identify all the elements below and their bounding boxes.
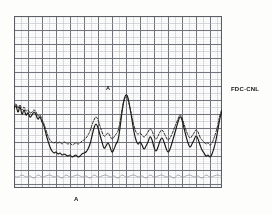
figure-page: FDC-CNL A A bbox=[0, 0, 272, 215]
peak-marker-label: A bbox=[106, 85, 110, 91]
chart-plate bbox=[14, 16, 222, 188]
graph-paper-grid bbox=[14, 16, 222, 188]
station-label: FDC-CNL bbox=[231, 86, 259, 92]
axis-marker-label: A bbox=[74, 196, 78, 202]
grid-lines bbox=[14, 16, 222, 188]
